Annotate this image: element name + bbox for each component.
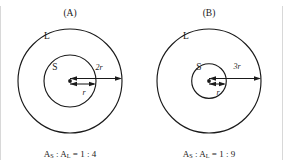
panel-b-outer-radius-arrow: [209, 76, 261, 80]
panel-a: (A) L S 2r r AS : AL = 1 : 4: [18, 8, 122, 159]
panel-a-inner-radius-arrow: [70, 82, 96, 86]
panel-a-inner-region-label: S: [52, 62, 57, 72]
panel-b-inner-region-label: S: [196, 62, 201, 72]
panel-b-ratio-equals: =: [210, 149, 220, 159]
panel-b-ratio-value: 1 : 9: [219, 149, 236, 159]
panel-b-outer-radius-label: 3r: [232, 62, 241, 71]
panel-b: (B) L S 3r r AS : AL = 1 : 9: [157, 8, 261, 159]
panel-b-title: (B): [203, 8, 216, 19]
concentric-circles-diagram: (A) L S 2r r AS : AL = 1 : 4: [0, 0, 283, 166]
panel-a-ratio-value: 1 : 4: [80, 149, 97, 159]
panel-a-outer-region-label: L: [44, 31, 50, 41]
panel-b-outer-region-label: L: [183, 31, 189, 41]
panel-b-inner-radius-label: r: [216, 88, 220, 97]
panel-b-ratio-caption: AS : AL = 1 : 9: [183, 149, 236, 159]
panel-b-center-dot: [207, 79, 211, 83]
panel-a-outer-radius-label: 2r: [95, 63, 103, 72]
panel-a-title: (A): [63, 8, 76, 19]
panel-b-inner-radius-arrow: [209, 82, 226, 86]
panel-a-center-dot: [68, 79, 72, 83]
panel-a-ratio-caption: AS : AL = 1 : 4: [44, 149, 97, 159]
panel-a-inner-radius-label: r: [82, 88, 86, 97]
figure-container: (A) L S 2r r AS : AL = 1 : 4: [0, 0, 283, 166]
panel-a-ratio-equals: =: [71, 149, 81, 159]
